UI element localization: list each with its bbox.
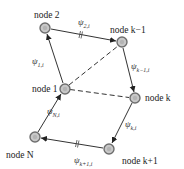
node-label-1: node 1	[32, 84, 58, 94]
node-k+1	[104, 144, 114, 154]
edge-label-psi-ki: ψk,i	[125, 119, 137, 131]
edge-label-psi-k-1i: ψk−1,i	[131, 61, 150, 73]
edge-label-psi-Ni: ψN,i	[47, 106, 60, 118]
edge-node2-to-nodek-1	[51, 29, 116, 41]
node-k	[130, 93, 140, 103]
node-label-k-1: node k−1	[110, 25, 146, 35]
node-label-N: node N	[6, 150, 34, 160]
node-N	[30, 132, 40, 142]
node-k-1	[117, 37, 127, 47]
node-label-k+1: node k+1	[122, 156, 158, 166]
node-label-2: node 2	[34, 10, 60, 20]
edge-label-psi-k+1i: ψk+1,i	[74, 155, 93, 167]
dashed-edge-node1-nodek	[70, 90, 129, 98]
dashed-edge-node1-nodek-1	[69, 46, 118, 85]
edge-label-psi-2i: ψ2,i	[78, 17, 90, 29]
node-1	[60, 84, 70, 94]
edge-label-psi-1i: ψ1,i	[32, 56, 44, 68]
edge-node1-to-node2	[47, 34, 63, 83]
node-label-k: node k	[145, 93, 171, 103]
node-2	[40, 23, 50, 33]
edge-nodek+1-to-nodeN	[41, 138, 103, 148]
ring-network-diagram: ψ1,i ψ2,i ψk−1,i ψk,i ψk+1,i ψN,i node 2…	[0, 0, 184, 169]
